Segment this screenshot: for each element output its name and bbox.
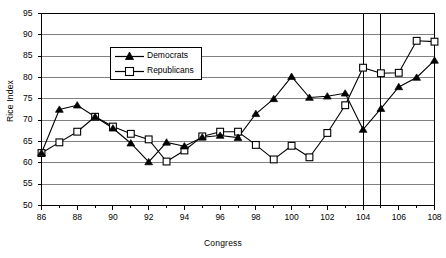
y-tick-label: 50 [7, 200, 33, 210]
x-axis-tick-marks [42, 206, 435, 210]
x-tick-label: 98 [241, 212, 271, 222]
rice-index-line-chart: 50556065707580859095 8688909294969810010… [0, 0, 446, 258]
horizontal-gridlines [42, 35, 435, 184]
x-tick-label: 86 [27, 212, 57, 222]
y-tick-label: 65 [7, 136, 33, 146]
y-tick-label: 55 [7, 178, 33, 188]
democrats-line [42, 60, 435, 162]
y-tick-label: 90 [7, 29, 33, 39]
y-axis-tick-marks [38, 14, 42, 206]
legend-entry-democrats: Democrats [111, 49, 203, 64]
x-axis-title: Congress [0, 238, 446, 248]
chart-legend: Democrats Republicans [110, 47, 202, 80]
x-tick-label: 92 [134, 212, 164, 222]
democrats-legend-marker [114, 49, 145, 64]
republicans-line [42, 41, 435, 162]
plot-frame [42, 14, 435, 206]
x-tick-label: 96 [205, 212, 235, 222]
y-axis-title: Rice Index [5, 69, 15, 133]
legend-label-democrats: Democrats [147, 50, 188, 60]
republicans-legend-marker [114, 64, 145, 79]
x-tick-label: 106 [384, 212, 414, 222]
legend-entry-republicans: Republicans [111, 64, 203, 79]
x-tick-label: 102 [312, 212, 342, 222]
x-tick-label: 108 [420, 212, 446, 222]
x-tick-label: 90 [98, 212, 128, 222]
x-tick-label: 100 [277, 212, 307, 222]
x-tick-label: 104 [348, 212, 378, 222]
y-tick-label: 85 [7, 50, 33, 60]
y-tick-label: 95 [7, 8, 33, 18]
legend-label-republicans: Republicans [147, 65, 194, 75]
y-tick-label: 60 [7, 157, 33, 167]
x-tick-label: 88 [62, 212, 92, 222]
x-tick-label: 94 [169, 212, 199, 222]
